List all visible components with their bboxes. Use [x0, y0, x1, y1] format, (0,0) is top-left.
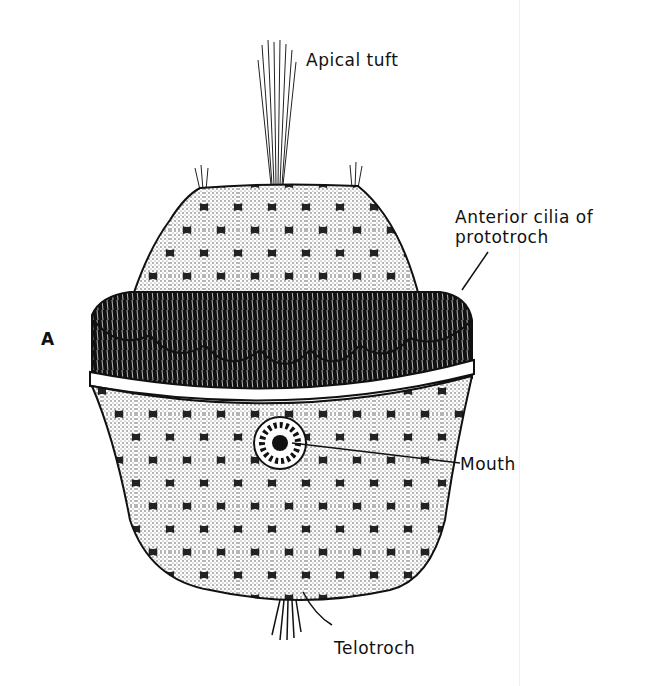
larva-figure: Apical tuft Anterior cilia of prototroch…: [0, 0, 650, 686]
label-anterior-cilia-line1: Anterior cilia of: [455, 207, 593, 227]
label-anterior-cilia-line2: prototroch: [455, 227, 549, 247]
apical-tuft: [258, 40, 296, 185]
label-telotroch: Telotroch: [334, 638, 415, 658]
larva-illustration: [0, 0, 650, 686]
label-apical-tuft: Apical tuft: [306, 50, 398, 70]
panel-letter: A: [41, 329, 54, 349]
hyposphere: [92, 376, 472, 600]
telotroch-cilia: [272, 600, 301, 640]
leader-anterior-cilia: [462, 252, 488, 290]
label-mouth: Mouth: [460, 454, 516, 474]
